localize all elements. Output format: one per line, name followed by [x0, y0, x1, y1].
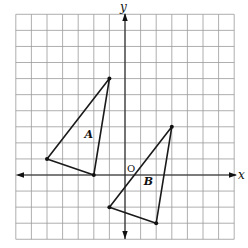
vertex-point — [92, 173, 96, 177]
coordinate-plane: x y O A B — [0, 0, 248, 248]
vertex-point — [170, 125, 174, 129]
triangle-a-label: A — [83, 128, 93, 141]
x-axis-left-arrow-icon — [16, 172, 24, 177]
x-axis-label: x — [238, 168, 245, 182]
x-axis-right-arrow-icon — [229, 172, 237, 177]
axes: x y O — [16, 0, 245, 239]
y-axis-label: y — [119, 0, 127, 14]
vertex-point — [45, 157, 49, 161]
y-axis-down-arrow-icon — [122, 231, 127, 239]
origin-label: O — [127, 163, 135, 174]
vertex-point — [107, 205, 111, 209]
vertex-point — [107, 77, 111, 81]
vertex-point — [154, 221, 158, 225]
triangle-b-label: B — [143, 175, 153, 188]
